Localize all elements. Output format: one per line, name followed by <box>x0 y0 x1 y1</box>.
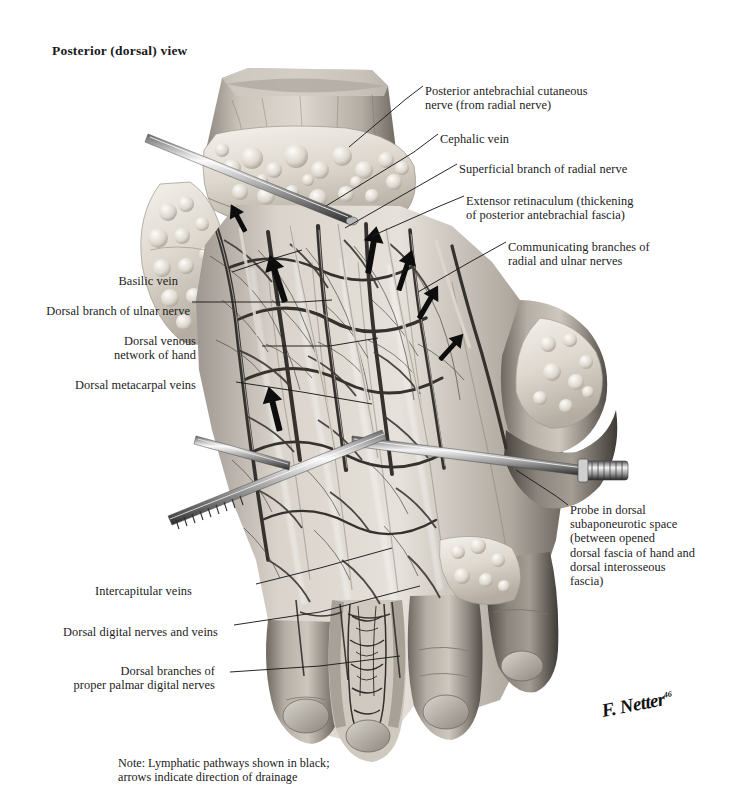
label-dorsal-venous-network-of-hand: Dorsal venousnetwork of hand <box>114 334 196 362</box>
label-text: proper palmar digital nerves <box>74 678 215 692</box>
page-title: Posterior (dorsal) view <box>52 43 188 59</box>
label-text: Dorsal branches of <box>121 664 215 678</box>
label-text: fascia) <box>570 574 603 588</box>
note-line: arrows indicate direction of drainage <box>118 770 297 784</box>
label-dorsal-digital-nerves-and-veins: Dorsal digital nerves and veins <box>63 625 218 639</box>
label-text: Dorsal venous <box>124 334 196 348</box>
label-text: (between opened <box>570 531 655 545</box>
label-text: Probe in dorsal <box>570 503 646 517</box>
label-text: Extensor retinaculum (thickening <box>466 194 633 208</box>
label-dorsal-branches-of-proper-palmar-digital-nerves: Dorsal branches ofproper palmar digital … <box>74 664 215 692</box>
label-text: Dorsal digital nerves and veins <box>63 625 218 639</box>
label-text: Dorsal branch of ulnar nerve <box>46 304 190 318</box>
label-text: Superficial branch of radial nerve <box>459 162 627 176</box>
label-text: Posterior antebrachial cutaneous <box>425 84 588 98</box>
label-dorsal-branch-of-ulnar-nerve: Dorsal branch of ulnar nerve <box>46 304 190 318</box>
label-text: Intercapitular veins <box>95 584 192 598</box>
label-text: dorsal fascia of hand and <box>570 546 695 560</box>
label-text: Cephalic vein <box>440 132 509 146</box>
label-text: Basilic vein <box>119 274 178 288</box>
label-dorsal-metacarpal-veins: Dorsal metacarpal veins <box>75 378 196 392</box>
note-line: Note: Lymphatic pathways shown in black; <box>118 756 330 770</box>
figure-note: Note: Lymphatic pathways shown in black;… <box>118 756 330 785</box>
label-probe-in-dorsal-subaponeurotic-space: Probe in dorsalsubaponeurotic space(betw… <box>570 503 695 588</box>
label-superficial-branch-of-radial-nerve: Superficial branch of radial nerve <box>459 162 627 176</box>
label-cephalic-vein: Cephalic vein <box>440 132 509 146</box>
label-text: nerve (from radial nerve) <box>425 98 551 112</box>
label-text: radial and ulnar nerves <box>508 254 622 268</box>
label-intercapitular-veins: Intercapitular veins <box>95 584 192 598</box>
label-posterior-antebrachial-cutaneous-nerve: Posterior antebrachial cutaneousnerve (f… <box>425 84 588 112</box>
label-text: dorsal interosseous <box>570 560 666 574</box>
label-communicating-branches: Communicating branches ofradial and ulna… <box>508 240 650 268</box>
label-text: Dorsal metacarpal veins <box>75 378 196 392</box>
label-basilic-vein: Basilic vein <box>119 274 178 288</box>
label-extensor-retinaculum: Extensor retinaculum (thickeningof poste… <box>466 194 633 222</box>
label-text: Communicating branches of <box>508 240 650 254</box>
anatomical-plate: Posterior (dorsal) view Posterior antebr… <box>0 0 729 801</box>
label-text: network of hand <box>114 348 196 362</box>
label-text: subaponeurotic space <box>570 517 677 531</box>
signature-year: 46 <box>663 689 673 699</box>
label-text: of posterior antebrachial fascia) <box>466 208 625 222</box>
